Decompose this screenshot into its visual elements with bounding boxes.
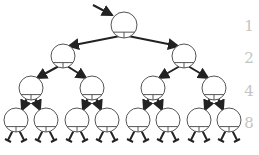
- tree-edge-arrow: [37, 66, 59, 78]
- tree-edge-arrow: [144, 98, 149, 110]
- tree-node: [187, 108, 211, 132]
- tree-edge-arrow: [157, 98, 162, 110]
- leaf-pointer-stub: [82, 139, 88, 142]
- level-3-count-label: 4: [240, 83, 258, 99]
- tree-node: [80, 76, 104, 100]
- tree-edge-arrow: [22, 98, 27, 110]
- leaf-pointer-stub: [173, 139, 179, 142]
- level-1-count-label: 1: [240, 18, 258, 34]
- tree-node: [126, 108, 150, 132]
- tree-node: [202, 76, 226, 100]
- tree-node: [111, 12, 137, 38]
- tree-edge-arrow: [218, 98, 223, 110]
- entry-arrow: [93, 5, 112, 15]
- leaf-pointer-stub: [35, 139, 41, 142]
- tree-node: [95, 108, 119, 132]
- tree-edge-arrow: [128, 36, 178, 46]
- leaf-pointer-stub: [204, 139, 210, 142]
- leaf-pointer-stub: [234, 139, 240, 142]
- level-4-count-label: 8: [240, 115, 258, 131]
- leaf-pointer-stub: [51, 139, 57, 142]
- leaf-pointer-stub: [21, 139, 27, 142]
- tree-edge-arrow: [159, 66, 180, 78]
- tree-node: [141, 76, 165, 100]
- tree-node: [19, 76, 43, 100]
- leaf-pointer-stub: [218, 139, 224, 142]
- level-2-count-label: 2: [240, 50, 258, 66]
- tree-node: [217, 108, 241, 132]
- leaf-pointer-stub: [188, 139, 194, 142]
- leaf-pointer-stub: [157, 139, 163, 142]
- leaf-pointer-stub: [143, 139, 149, 142]
- binary-tree-diagram: [0, 0, 259, 155]
- leaf-pointer-stub: [112, 139, 118, 142]
- tree-edge-arrow: [35, 98, 40, 110]
- tree-edge-arrow: [205, 98, 210, 110]
- tree-node: [156, 108, 180, 132]
- leaf-pointer-stub: [127, 139, 133, 142]
- tree-node: [51, 44, 75, 68]
- tree-edge-arrow: [83, 98, 88, 110]
- tree-edge-arrow: [69, 36, 120, 46]
- tree-node: [4, 108, 28, 132]
- tree-edge-arrow: [188, 66, 208, 78]
- leaf-pointer-stub: [96, 139, 102, 142]
- leaf-pointer-stub: [66, 139, 72, 142]
- tree-node: [172, 44, 196, 68]
- tree-node: [65, 108, 89, 132]
- tree-edge-arrow: [67, 66, 86, 78]
- tree-node: [34, 108, 58, 132]
- tree-edge-arrow: [96, 98, 101, 110]
- leaf-pointer-stub: [5, 139, 11, 142]
